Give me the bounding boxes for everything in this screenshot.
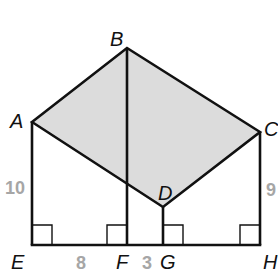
length-label-ef: 8 — [76, 254, 86, 271]
right-angle-mark-g — [163, 225, 183, 245]
right-angle-mark-h — [240, 225, 260, 245]
point-label-d: D — [158, 183, 172, 203]
point-label-a: A — [10, 111, 23, 131]
diagram-canvas — [0, 0, 278, 271]
length-label-ch: 9 — [266, 181, 276, 199]
point-label-e: E — [11, 252, 24, 271]
point-label-b: B — [110, 29, 123, 49]
geometry-diagram: B A C D E F G H 10 8 3 9 — [0, 0, 278, 271]
point-label-f: F — [116, 252, 128, 271]
length-label-fg: 3 — [142, 254, 152, 271]
length-label-ae: 10 — [5, 179, 25, 197]
right-angle-mark-e — [32, 225, 52, 245]
point-label-g: G — [160, 252, 176, 271]
shaded-quadrilateral-abcd — [32, 48, 260, 207]
point-label-h: H — [263, 252, 277, 271]
right-angle-mark-f — [107, 225, 127, 245]
point-label-c: C — [264, 119, 278, 139]
